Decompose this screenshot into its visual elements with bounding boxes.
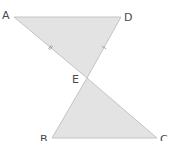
vertex-label-a: A xyxy=(2,10,10,21)
triangle-bce xyxy=(52,78,157,138)
vertex-label-b: B xyxy=(40,134,48,141)
diagram-canvas xyxy=(0,0,170,141)
triangle-ade xyxy=(14,17,121,78)
vertex-label-e: E xyxy=(72,74,79,85)
vertex-label-c: C xyxy=(160,134,168,141)
vertex-label-d: D xyxy=(124,12,132,23)
